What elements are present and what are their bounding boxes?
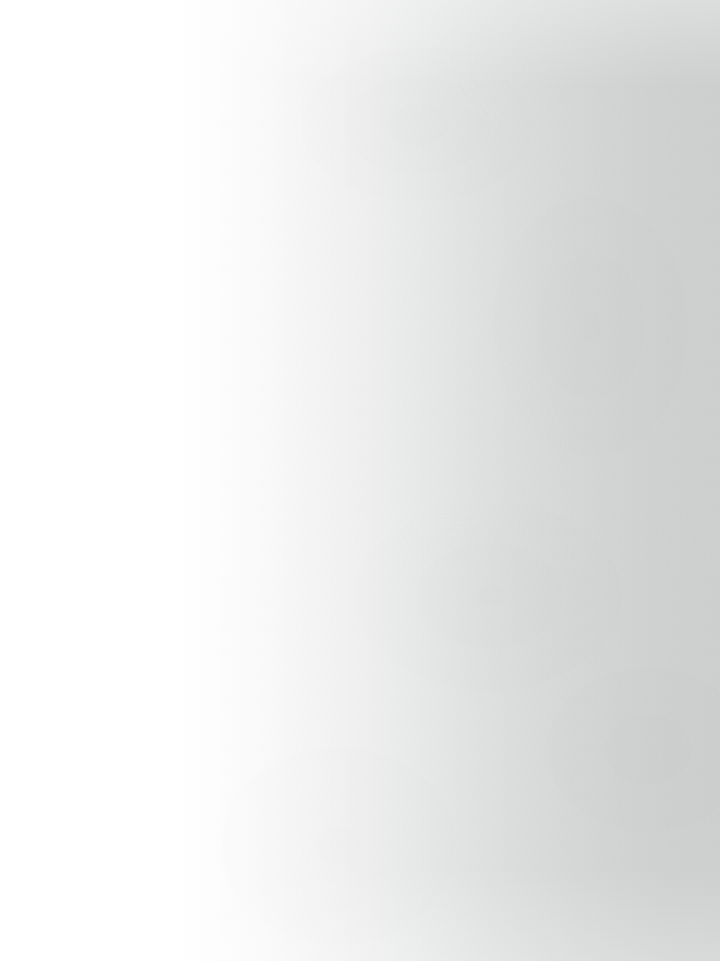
scanned-page xyxy=(0,0,720,961)
page-content-area xyxy=(0,0,720,961)
